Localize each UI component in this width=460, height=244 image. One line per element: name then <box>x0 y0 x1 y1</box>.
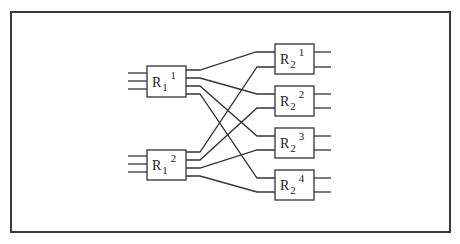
label-sup: 4 <box>299 172 305 184</box>
label-sup: 2 <box>171 152 177 164</box>
label-sup: 1 <box>170 69 176 81</box>
network-diagram: R11 R12 R21 R22 R23 R24 <box>0 0 460 244</box>
interconnect-wires <box>186 52 275 192</box>
label-sup: 2 <box>299 88 305 100</box>
wire-r1-2-to-r2-3 <box>186 150 275 168</box>
label-sub: 2 <box>290 184 296 196</box>
label-sub: 2 <box>290 142 296 154</box>
diagram-frame <box>11 12 450 232</box>
switch-r2-3: R23 <box>275 128 314 158</box>
r1-1-inputs <box>128 73 147 89</box>
label-sub: 2 <box>290 100 296 112</box>
label-base: R <box>280 136 290 151</box>
r1-2-inputs <box>128 156 147 172</box>
label-base: R <box>152 158 162 173</box>
label-base: R <box>280 52 290 67</box>
label-sup: 3 <box>299 130 305 142</box>
switch-r2-1: R21 <box>275 44 314 74</box>
label-sub: 2 <box>290 58 296 70</box>
label-base: R <box>280 178 290 193</box>
switch-r1-2: R12 <box>147 150 186 180</box>
switch-r2-4: R24 <box>275 170 314 200</box>
switch-r2-2: R22 <box>275 86 314 116</box>
label-sup: 1 <box>299 46 305 58</box>
label-sub: 1 <box>162 81 167 93</box>
label-sub: 1 <box>162 164 168 176</box>
switch-r1-1: R11 <box>147 66 186 97</box>
r2-outputs <box>314 52 331 192</box>
label-base: R <box>280 94 290 109</box>
label-base: R <box>152 75 162 90</box>
